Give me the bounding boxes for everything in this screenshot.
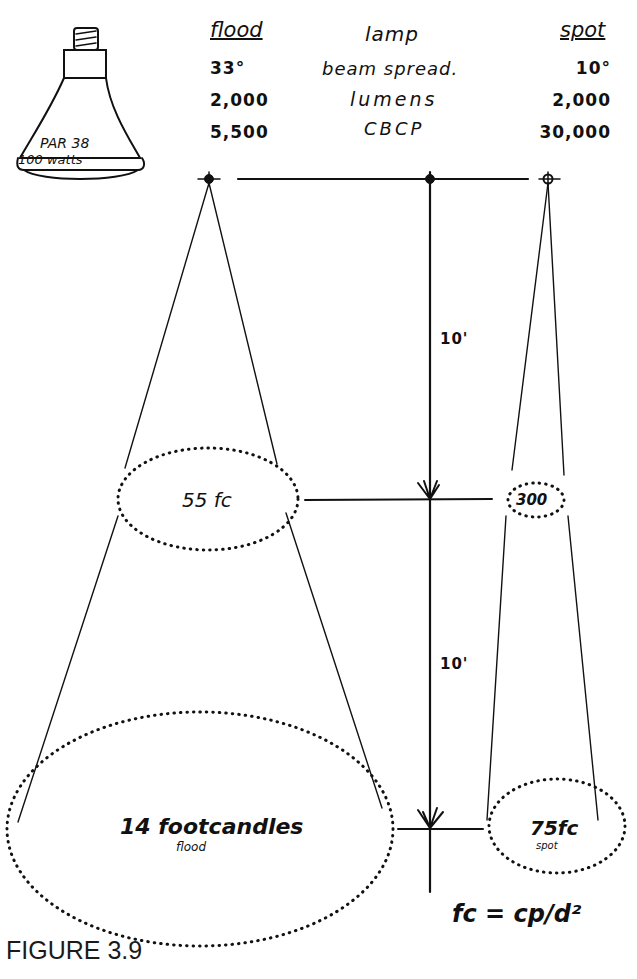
distance-label-2: 10' bbox=[440, 655, 468, 673]
spot-10ft-value: 300 bbox=[516, 491, 547, 509]
label-lumens: lumens bbox=[350, 88, 437, 110]
header-lamp: lamp bbox=[365, 22, 419, 46]
lamp-label-watts: 100 watts bbox=[18, 152, 83, 167]
spot-beam-spread: 10° bbox=[576, 58, 611, 78]
lamp-label-type: PAR 38 bbox=[40, 135, 89, 151]
flood-cbcp: 5,500 bbox=[210, 122, 269, 142]
distance-label-1: 10' bbox=[440, 330, 468, 348]
label-beam-spread: beam spread. bbox=[322, 58, 458, 79]
flood-20ft-value: 14 footcandles bbox=[120, 814, 303, 839]
flood-beam-spread: 33° bbox=[210, 58, 245, 78]
figure-caption: FIGURE 3.9 bbox=[6, 936, 142, 965]
label-cbcp: CBCP bbox=[364, 118, 424, 139]
spot-20ft-value: 75fc bbox=[530, 816, 578, 840]
header-spot: spot bbox=[560, 18, 605, 42]
inverse-square-formula: fc = cp/d² bbox=[452, 900, 581, 928]
header-flood: flood bbox=[210, 18, 263, 42]
spot-20ft-sublabel: spot bbox=[536, 840, 558, 851]
flood-10ft-value: 55 fc bbox=[182, 488, 232, 512]
spot-cbcp: 30,000 bbox=[539, 122, 611, 142]
spot-lumens: 2,000 bbox=[552, 90, 611, 110]
flood-20ft-sublabel: flood bbox=[176, 840, 206, 854]
flood-lumens: 2,000 bbox=[210, 90, 269, 110]
